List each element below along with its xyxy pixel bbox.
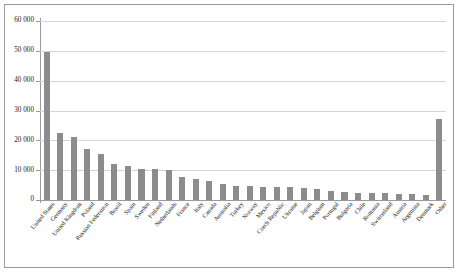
bar [125, 166, 131, 200]
bar [382, 193, 388, 200]
y-axis-tick-label: 60 000 [14, 17, 34, 24]
bar [233, 186, 239, 200]
bar [423, 195, 429, 200]
bar [71, 137, 77, 200]
bar [111, 164, 117, 200]
x-axis-tick-label: Other [434, 201, 448, 216]
bar [287, 187, 293, 200]
bar [179, 177, 185, 200]
bar [206, 181, 212, 200]
y-axis-tick-label: 10 000 [14, 167, 34, 174]
y-axis-tick-labels: 60 00050 00040 00030 00020 00010 0000 [0, 0, 34, 274]
bar [314, 189, 320, 200]
bar [152, 169, 158, 200]
bar [301, 188, 307, 200]
bar [396, 194, 402, 200]
bar [44, 52, 50, 200]
chart-figure: 60 00050 00040 00030 00020 00010 0000 Un… [0, 0, 458, 274]
y-axis-tick-label: 40 000 [14, 77, 34, 84]
bar [84, 149, 90, 200]
bar [98, 154, 104, 200]
bar-series [40, 21, 446, 200]
y-axis-tick-label: 30 000 [14, 107, 34, 114]
bar [138, 169, 144, 200]
bar [436, 119, 442, 200]
bar [341, 192, 347, 200]
bar [369, 193, 375, 200]
x-axis-tick-label: France [175, 201, 191, 218]
bar [166, 170, 172, 200]
bar [193, 179, 199, 200]
bar [409, 194, 415, 200]
bar [355, 193, 361, 200]
bar [274, 187, 280, 200]
bar [260, 187, 266, 200]
bar [57, 133, 63, 200]
x-axis-tick-label: Brazil [109, 201, 123, 217]
y-axis-tick-label: 0 [30, 196, 34, 203]
bar [220, 184, 226, 200]
y-axis-tick-label: 50 000 [14, 47, 34, 54]
bar [328, 191, 334, 200]
x-axis-tick-labels: United StatesGermanyUnited KingdomPoland… [40, 201, 446, 271]
bar [247, 186, 253, 200]
y-axis-tick-label: 20 000 [14, 137, 34, 144]
